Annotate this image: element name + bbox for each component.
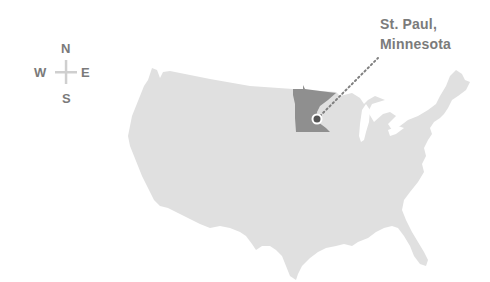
compass-west: W (34, 66, 46, 79)
location-label-city: St. Paul, (380, 14, 451, 34)
compass-cross-icon (55, 60, 77, 84)
map-graphic: N W E S St. Paul, Minnesota (0, 0, 490, 282)
compass-east: E (81, 66, 90, 79)
compass-south: S (62, 92, 71, 105)
st-paul-marker[interactable] (314, 116, 321, 123)
location-label: St. Paul, Minnesota (380, 14, 451, 54)
location-label-state: Minnesota (380, 34, 451, 54)
compass-north: N (61, 42, 70, 55)
